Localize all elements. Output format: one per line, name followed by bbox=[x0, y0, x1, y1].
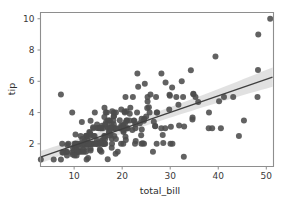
data-point bbox=[129, 127, 135, 133]
data-point bbox=[180, 94, 186, 100]
x-tick-label: 10 bbox=[68, 171, 80, 181]
data-point bbox=[71, 153, 77, 159]
figure-background bbox=[0, 0, 285, 202]
data-point bbox=[153, 94, 159, 100]
data-point bbox=[87, 130, 93, 136]
data-point bbox=[181, 154, 187, 160]
data-point bbox=[123, 137, 129, 143]
data-point bbox=[118, 141, 124, 147]
data-point bbox=[154, 110, 160, 116]
data-point bbox=[84, 156, 90, 162]
y-tick-label: 10 bbox=[23, 14, 35, 24]
x-tick-label: 50 bbox=[261, 171, 273, 181]
data-point bbox=[255, 94, 261, 100]
data-point bbox=[255, 31, 261, 37]
data-point bbox=[255, 67, 261, 73]
data-point bbox=[110, 117, 116, 123]
data-point bbox=[147, 91, 153, 97]
data-point bbox=[163, 80, 169, 86]
data-point bbox=[173, 94, 179, 100]
data-point bbox=[206, 110, 212, 116]
data-point bbox=[123, 117, 129, 123]
y-tick-label: 8 bbox=[29, 45, 35, 55]
data-point bbox=[105, 156, 111, 162]
x-axis-label: total_bill bbox=[140, 185, 180, 196]
data-point bbox=[122, 110, 128, 116]
data-point bbox=[92, 110, 98, 116]
data-point bbox=[98, 125, 104, 131]
data-point bbox=[241, 117, 247, 123]
data-point bbox=[230, 94, 236, 100]
figure-canvas: 1020304050 246810 total_bill tip bbox=[0, 0, 285, 202]
data-point bbox=[138, 132, 144, 138]
data-point bbox=[130, 94, 136, 100]
data-point bbox=[135, 84, 141, 90]
data-point bbox=[73, 131, 79, 137]
data-point bbox=[139, 126, 145, 132]
data-point bbox=[175, 102, 181, 108]
data-point bbox=[97, 141, 103, 147]
data-point bbox=[158, 70, 164, 76]
data-point bbox=[190, 91, 196, 97]
y-tick-label: 6 bbox=[29, 76, 35, 86]
data-point bbox=[58, 92, 64, 98]
data-point bbox=[209, 125, 215, 131]
y-tick-label: 2 bbox=[29, 139, 35, 149]
data-point bbox=[158, 125, 164, 131]
data-point bbox=[113, 151, 119, 157]
data-point bbox=[151, 119, 157, 125]
data-point bbox=[190, 115, 196, 121]
data-point bbox=[168, 124, 174, 130]
data-point bbox=[216, 98, 222, 104]
y-tick-label: 4 bbox=[29, 108, 35, 118]
data-point bbox=[88, 147, 94, 153]
data-point bbox=[166, 92, 172, 98]
data-point bbox=[58, 156, 64, 162]
scatter-plot: 1020304050 246810 total_bill tip bbox=[0, 0, 285, 202]
data-point bbox=[59, 141, 65, 147]
data-point bbox=[51, 156, 57, 162]
data-point bbox=[98, 149, 104, 155]
data-point bbox=[169, 85, 175, 91]
data-point bbox=[160, 132, 166, 138]
data-point bbox=[267, 16, 273, 22]
data-point bbox=[69, 110, 75, 116]
data-point bbox=[142, 81, 148, 87]
data-point bbox=[117, 117, 123, 123]
data-point bbox=[88, 118, 94, 124]
data-point bbox=[236, 133, 242, 139]
data-point bbox=[150, 149, 156, 155]
data-point bbox=[212, 54, 218, 60]
x-tick-label: 40 bbox=[213, 171, 225, 181]
data-point bbox=[154, 141, 160, 147]
x-tick-label: 30 bbox=[164, 171, 176, 181]
data-point bbox=[132, 141, 138, 147]
data-point bbox=[79, 119, 85, 125]
data-point bbox=[181, 123, 187, 129]
data-point bbox=[179, 78, 185, 84]
data-point bbox=[107, 125, 113, 131]
data-point bbox=[218, 125, 224, 131]
data-point bbox=[113, 110, 119, 116]
data-point bbox=[168, 141, 174, 147]
data-point bbox=[134, 110, 140, 116]
y-axis-label: tip bbox=[6, 83, 17, 95]
data-point bbox=[122, 94, 128, 100]
data-point bbox=[188, 67, 194, 73]
data-point bbox=[103, 110, 109, 116]
data-point bbox=[109, 145, 115, 151]
data-point bbox=[160, 140, 166, 146]
data-point bbox=[176, 122, 182, 128]
data-point bbox=[138, 141, 144, 147]
x-tick-label: 20 bbox=[116, 171, 128, 181]
data-point bbox=[134, 70, 140, 76]
data-point bbox=[113, 136, 119, 142]
